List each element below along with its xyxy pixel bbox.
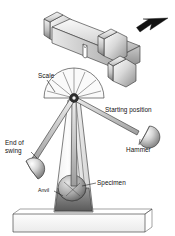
diagram-canvas: Scale Starting position Hammer End of sw… — [0, 0, 175, 236]
label-end-of-swing-line1: End of — [5, 139, 24, 146]
charpy-impact-diagram: Scale Starting position Hammer End of sw… — [0, 0, 175, 236]
label-starting-position-text: Starting position — [105, 106, 152, 114]
impact-arrow-icon — [137, 18, 169, 32]
label-starting-position: Starting position — [105, 106, 152, 114]
pendulum-arm-rest — [71, 98, 77, 186]
machine-base — [13, 209, 152, 232]
label-end-of-swing-line2: swing — [5, 147, 22, 155]
label-scale-text: Scale — [38, 72, 55, 79]
label-anvil-text: Anvil — [38, 187, 49, 193]
pendulum-pivot — [70, 94, 79, 103]
hammer-start-position — [140, 126, 160, 148]
label-hammer-text: Hammer — [126, 146, 152, 153]
label-specimen-text: Specimen — [97, 179, 126, 187]
label-end-of-swing: End of swing — [5, 139, 37, 158]
specimen-v-notch — [83, 44, 87, 58]
hammer-end-of-swing — [26, 158, 45, 179]
